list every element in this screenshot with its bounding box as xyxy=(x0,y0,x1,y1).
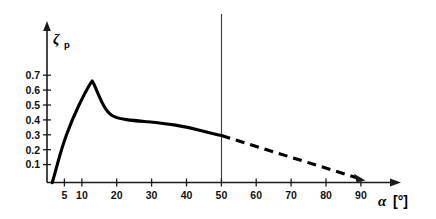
x-tick-label: 10 xyxy=(76,189,88,201)
x-tick-label: 40 xyxy=(181,189,193,201)
x-axis-title: α [°] xyxy=(378,193,408,209)
y-axis-title: ζ p xyxy=(53,31,70,50)
extrapolated-curve-dashed xyxy=(222,136,358,178)
x-tick-label: 60 xyxy=(250,189,262,201)
y-tick-label: 0.1 xyxy=(25,158,40,170)
y-axis-arrow-icon xyxy=(43,21,51,31)
x-tick-label: 30 xyxy=(146,189,158,201)
y-axis-title-subscript: p xyxy=(64,39,70,50)
x-axis-tick-labels: 5 10 20 30 40 50 60 70 80 90 xyxy=(61,189,366,201)
measured-curve-solid xyxy=(52,81,221,183)
x-axis-arrow-icon xyxy=(390,179,401,187)
x-tick-label: 20 xyxy=(111,189,123,201)
y-axis-tick-labels: 0.7 0.6 0.5 0.4 0.3 0.2 0.1 xyxy=(25,69,40,170)
x-tick-label: 90 xyxy=(355,189,367,201)
y-tick-label: 0.7 xyxy=(25,69,40,81)
x-tick-label: 80 xyxy=(320,189,332,201)
x-axis-title-unit: [°] xyxy=(393,193,408,209)
y-tick-label: 0.6 xyxy=(25,84,40,96)
y-tick-label: 0.4 xyxy=(25,114,40,126)
x-tick-label: 70 xyxy=(285,189,297,201)
chart-figure: 0.7 0.6 0.5 0.4 0.3 0.2 0.1 5 10 20 30 xyxy=(0,0,436,219)
y-tick-label: 0.3 xyxy=(25,129,40,141)
chart-canvas: 0.7 0.6 0.5 0.4 0.3 0.2 0.1 5 10 20 30 xyxy=(0,0,436,219)
y-tick-label: 0.2 xyxy=(25,144,40,156)
extrapolation-arrow-icon xyxy=(354,174,366,182)
x-tick-label: 50 xyxy=(216,189,228,201)
x-tick-label: 5 xyxy=(61,189,67,201)
y-axis-title-symbol: ζ xyxy=(53,31,61,47)
y-tick-label: 0.5 xyxy=(25,99,40,111)
x-axis-title-symbol: α xyxy=(378,193,387,209)
